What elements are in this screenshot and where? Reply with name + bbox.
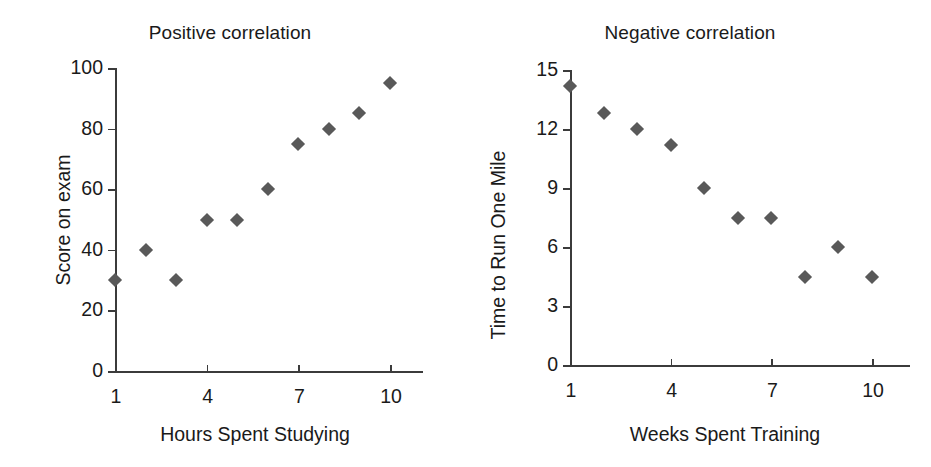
x-tick-positive-1	[207, 365, 209, 372]
x-tick-negative-1	[671, 359, 673, 366]
correlation-figure: Positive correlation 02040608010014710 H…	[0, 0, 931, 467]
x-tick-label-negative-1: 4	[666, 381, 677, 401]
data-point-negative-6	[764, 210, 778, 224]
data-point-negative-5	[731, 210, 745, 224]
y-tick-positive-4	[108, 129, 115, 131]
x-tick-label-positive-0: 1	[111, 387, 122, 407]
y-tick-label-negative-5: 15	[492, 60, 558, 80]
data-point-negative-0	[563, 79, 577, 93]
chart-title-negative: Negative correlation	[490, 22, 890, 44]
x-axis-line-positive	[115, 371, 423, 373]
data-point-positive-4	[230, 212, 244, 226]
y-tick-label-positive-4: 80	[37, 119, 103, 139]
x-tick-label-negative-3: 10	[862, 381, 884, 401]
data-point-positive-5	[261, 182, 275, 196]
chart-panel-positive-correlation: Positive correlation 02040608010014710 H…	[0, 0, 465, 467]
x-tick-negative-3	[872, 359, 874, 366]
data-point-negative-8	[831, 240, 845, 254]
y-axis-line-positive	[115, 68, 117, 371]
data-point-positive-7	[322, 122, 336, 136]
data-point-negative-3	[664, 138, 678, 152]
x-axis-title-positive: Hours Spent Studying	[160, 423, 350, 446]
x-tick-label-positive-1: 4	[202, 387, 213, 407]
data-point-positive-9	[383, 76, 397, 90]
data-point-negative-9	[865, 269, 879, 283]
y-tick-label-positive-1: 20	[37, 301, 103, 321]
y-tick-label-positive-0: 0	[37, 361, 103, 381]
y-tick-label-negative-0: 0	[492, 355, 558, 375]
y-tick-label-negative-4: 12	[492, 119, 558, 139]
y-tick-negative-4	[563, 129, 570, 131]
y-tick-positive-3	[108, 189, 115, 191]
y-tick-negative-3	[563, 188, 570, 190]
x-tick-label-negative-2: 7	[767, 381, 778, 401]
y-tick-positive-2	[108, 250, 115, 252]
data-point-positive-2	[169, 273, 183, 287]
data-point-positive-8	[352, 106, 366, 120]
x-tick-label-positive-3: 10	[380, 387, 402, 407]
y-tick-positive-1	[108, 310, 115, 312]
chart-panel-negative-correlation: Negative correlation 0369121514710 Weeks…	[465, 0, 931, 467]
y-tick-negative-1	[563, 306, 570, 308]
data-point-positive-1	[138, 243, 152, 257]
x-tick-negative-0	[570, 359, 572, 366]
data-point-positive-3	[200, 212, 214, 226]
data-point-negative-7	[798, 269, 812, 283]
data-point-positive-6	[291, 137, 305, 151]
x-tick-positive-2	[298, 365, 300, 372]
x-tick-positive-0	[115, 365, 117, 372]
y-tick-negative-2	[563, 247, 570, 249]
y-axis-title-negative: Time to Run One Mile	[487, 151, 510, 340]
x-tick-positive-3	[390, 365, 392, 372]
data-point-negative-1	[596, 106, 610, 120]
y-tick-label-positive-5: 100	[37, 58, 103, 78]
y-tick-negative-5	[563, 70, 570, 72]
y-tick-negative-0	[563, 365, 570, 367]
x-axis-line-negative	[570, 365, 910, 367]
y-tick-positive-0	[108, 371, 115, 373]
x-tick-label-negative-0: 1	[566, 381, 577, 401]
y-axis-title-positive: Score on exam	[52, 154, 75, 285]
y-axis-line-negative	[570, 70, 572, 365]
x-tick-label-positive-2: 7	[294, 387, 305, 407]
data-point-positive-0	[108, 273, 122, 287]
data-point-negative-4	[697, 181, 711, 195]
data-point-negative-2	[630, 122, 644, 136]
chart-title-positive: Positive correlation	[30, 22, 430, 44]
y-tick-positive-5	[108, 68, 115, 70]
x-axis-title-negative: Weeks Spent Training	[630, 423, 820, 446]
x-tick-negative-2	[771, 359, 773, 366]
